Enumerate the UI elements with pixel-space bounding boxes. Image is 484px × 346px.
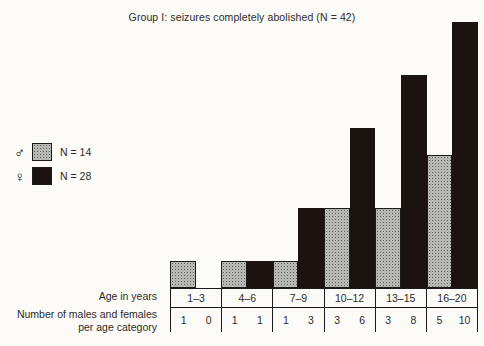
- bar-female: [247, 261, 273, 288]
- legend-swatch-male: [32, 143, 52, 161]
- legend-label-male: N = 14: [60, 146, 91, 158]
- table-cell-counts: 36: [324, 308, 375, 332]
- bar-male: [375, 208, 401, 288]
- bar-group: [221, 22, 272, 288]
- table-cell-counts: 13: [272, 308, 323, 332]
- bar-male: [427, 155, 453, 288]
- count-female: 0: [196, 314, 221, 326]
- bar-female: [350, 128, 376, 288]
- count-male: 3: [376, 314, 401, 326]
- age-row-label: Age in years: [0, 290, 164, 303]
- count-female: 6: [350, 314, 375, 326]
- table-cell-age: 16–20: [426, 289, 478, 307]
- male-symbol-icon: ♂: [14, 145, 30, 160]
- counts-row-label-line1: Number of males and females: [0, 308, 157, 321]
- bar-male: [273, 261, 299, 288]
- table-cell-counts: 38: [375, 308, 426, 332]
- plot-area: [170, 22, 478, 288]
- table-row-age: 1–34–67–910–1213–1516–20: [170, 288, 478, 308]
- table-cell-age: 13–15: [375, 289, 426, 307]
- table-cell-age: 7–9: [272, 289, 323, 307]
- table-cell-age: 10–12: [324, 289, 375, 307]
- bar-group: [170, 22, 221, 288]
- legend-item-male: ♂ N = 14: [14, 140, 134, 164]
- counts-row-label: Number of males and females per age cate…: [0, 308, 164, 334]
- table-cell-counts: 510: [426, 308, 478, 332]
- bar-female: [401, 75, 427, 288]
- bar-group: [273, 22, 324, 288]
- bar-male: [170, 261, 196, 288]
- counts-row-label-line2: per age category: [0, 321, 157, 334]
- table-row-counts: 1011133638510: [170, 308, 478, 332]
- count-male: 1: [171, 314, 196, 326]
- bar-group: [375, 22, 426, 288]
- chart-legend: ♂ N = 14 ♀ N = 28: [14, 140, 134, 188]
- bar-group: [324, 22, 375, 288]
- data-table: 1–34–67–910–1213–1516–20 1011133638510: [170, 288, 478, 332]
- bar-group: [427, 22, 478, 288]
- table-cell-age: 4–6: [221, 289, 272, 307]
- count-male: 1: [273, 314, 298, 326]
- count-female: 1: [247, 314, 272, 326]
- count-male: 5: [427, 314, 452, 326]
- count-female: 3: [298, 314, 323, 326]
- legend-item-female: ♀ N = 28: [14, 164, 134, 188]
- bar-female: [298, 208, 324, 288]
- table-cell-counts: 11: [221, 308, 272, 332]
- bar-female: [452, 22, 478, 288]
- bar-male: [324, 208, 350, 288]
- count-female: 10: [452, 314, 477, 326]
- count-female: 8: [401, 314, 426, 326]
- bar-male: [221, 261, 247, 288]
- chart-figure: Group I: seizures completely abolished (…: [0, 0, 484, 346]
- legend-swatch-female: [32, 167, 52, 185]
- legend-label-female: N = 28: [60, 170, 91, 182]
- table-cell-counts: 10: [170, 308, 221, 332]
- count-male: 1: [222, 314, 247, 326]
- count-male: 3: [325, 314, 350, 326]
- female-symbol-icon: ♀: [14, 169, 30, 184]
- table-cell-age: 1–3: [170, 289, 221, 307]
